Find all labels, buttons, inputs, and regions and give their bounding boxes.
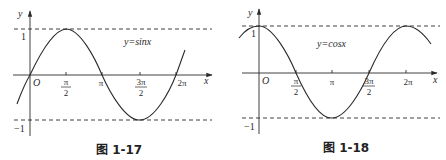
svg-text:π: π — [64, 77, 69, 87]
figure-canvas: y x O 1 −1 y=sinx π 2 π 3π 2 2π — [0, 0, 446, 160]
tick-label-3pi-over-2: 3π 2 — [363, 76, 375, 97]
y-tick-label-neg-one: −1 — [244, 121, 255, 132]
y-tick-label-one: 1 — [21, 31, 26, 42]
tick-label-pi: π — [99, 78, 104, 88]
tick-label-pi-over-2: π 2 — [61, 77, 71, 98]
curve-label-cos: y=cosx — [316, 38, 347, 49]
tick-label-3pi-over-2: 3π 2 — [135, 77, 147, 98]
origin-label: O — [33, 77, 40, 88]
y-axis-label: y — [17, 8, 23, 19]
x-axis-label: x — [432, 74, 438, 85]
svg-text:3π: 3π — [364, 76, 374, 86]
svg-text:2: 2 — [367, 87, 372, 97]
svg-text:3π: 3π — [136, 77, 146, 87]
tick-label-2pi: 2π — [177, 78, 187, 88]
y-axis-label: y — [247, 7, 253, 18]
curve-label-sin: y=sinx — [123, 36, 152, 47]
cosine-graph: y x O 1 −1 y=cosx π 2 π 3π 2 2π — [239, 7, 440, 134]
svg-text:2: 2 — [294, 87, 299, 97]
x-axis-label: x — [203, 75, 209, 86]
sine-graph: y x O 1 −1 y=sinx π 2 π 3π 2 2π — [13, 8, 212, 136]
y-tick-label-neg-one: −1 — [14, 123, 25, 134]
y-tick-label-one: 1 — [251, 28, 256, 39]
svg-text:2: 2 — [139, 88, 144, 98]
caption-figure-1-18: 图 1-18 — [323, 138, 369, 155]
tick-label-pi: π — [330, 77, 335, 87]
tick-label-2pi: 2π — [403, 77, 413, 87]
tick-label-pi-over-2: π 2 — [291, 76, 301, 97]
svg-text:2: 2 — [64, 88, 69, 98]
origin-label: O — [262, 75, 269, 86]
svg-text:π: π — [294, 76, 299, 86]
sine-curve — [17, 29, 185, 120]
caption-figure-1-17: 图 1-17 — [96, 140, 142, 157]
